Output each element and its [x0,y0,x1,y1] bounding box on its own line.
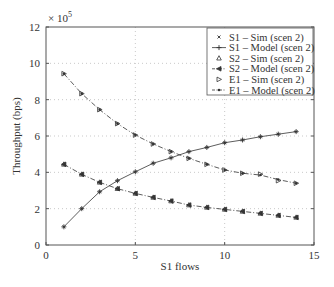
line-chart: 024681012051015 × 105 S1 flows Throughpu… [0,0,334,287]
dot-marker-icon [63,72,66,75]
x-tick-label: 5 [133,249,139,261]
x-axis-label: S1 flows [161,260,200,272]
y-tick-label: 0 [35,239,41,251]
plus-marker-icon [258,134,263,139]
y-tick-label: 2 [35,203,41,215]
plus-marker-icon [115,178,120,183]
plus-marker-icon [151,161,156,166]
dot-marker-icon [188,157,191,160]
plus-marker-icon [186,149,191,154]
y-tick-label: 6 [35,130,41,142]
y-axis-label: Throughput (bps) [10,97,23,175]
x-tick-label: 0 [43,249,49,261]
plus-marker-icon [276,132,281,137]
dot-marker-icon [134,134,137,137]
y-multiplier: × 105 [48,10,72,24]
x-tick-label: 15 [309,249,321,261]
dot-marker-icon [80,92,83,95]
y-tick-label: 8 [35,94,41,106]
dot-marker-icon [116,122,119,125]
dot-marker-icon [170,150,173,153]
dot-marker-icon [152,143,155,146]
dot-marker-icon [277,178,280,181]
dot-marker-icon [223,169,226,172]
dot-marker-icon [218,89,221,92]
y-tick-label: 10 [29,57,41,69]
dot-marker-icon [206,163,209,166]
plus-marker-icon [240,137,245,142]
dot-marker-icon [98,108,101,111]
plus-marker-icon [204,145,209,150]
dot-marker-icon [241,172,244,175]
dot-marker-icon [259,174,262,177]
legend-label: E1 – Model (scen 2) [229,85,315,97]
plus-marker-icon [133,169,138,174]
series-1 [61,129,298,229]
dot-marker-icon [295,182,298,185]
y-tick-label: 12 [29,21,40,33]
series-2 [62,162,299,219]
series-3 [61,162,298,220]
legend: S1 – Sim (scen 2)S1 – Model (scen 2)S2 –… [207,28,315,97]
y-tick-label: 4 [35,166,41,178]
x-tick-label: 10 [219,249,231,261]
plus-marker-icon [169,155,174,160]
plus-marker-icon [222,140,227,145]
plus-marker-icon [294,129,299,134]
